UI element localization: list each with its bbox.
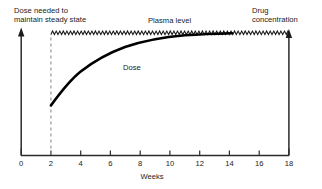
x-tick-label-6: 6: [100, 159, 120, 168]
x-tick-label-12: 12: [190, 159, 210, 168]
annotation-steady-state-line1: Dose needed to: [14, 6, 68, 15]
annotation-steady-state: Dose needed tomaintain steady state: [14, 6, 86, 24]
x-tick-label-8: 8: [130, 159, 150, 168]
plasma-level-zigzag: [51, 31, 289, 34]
x-tick-label-10: 10: [160, 159, 180, 168]
x-tick-label-0: 0: [11, 159, 31, 168]
x-tick-label-2: 2: [41, 159, 61, 168]
x-axis-title: Weeks: [132, 172, 172, 181]
x-tick-label-14: 14: [219, 159, 239, 168]
x-tick-label-18: 18: [279, 159, 299, 168]
annotation-drug-concentration: Drugconcentration: [252, 6, 298, 24]
annotation-plasma-level: Plasma level: [148, 16, 191, 25]
drug-concentration-chart: Dose needed tomaintain steady state Plas…: [0, 0, 322, 189]
annotation-drug-line2: concentration: [252, 15, 298, 24]
x-tick-label-4: 4: [71, 159, 91, 168]
annotation-drug-line1: Drug: [252, 6, 269, 15]
annotation-steady-state-line2: maintain steady state: [14, 15, 86, 24]
right-axis-arrow: [286, 29, 292, 156]
x-tick-label-16: 16: [249, 159, 269, 168]
annotation-dose: Dose: [123, 63, 141, 72]
y-axis-arrow: [18, 28, 24, 156]
x-axis-ticks: [21, 149, 289, 156]
dose-curve: [51, 33, 232, 105]
